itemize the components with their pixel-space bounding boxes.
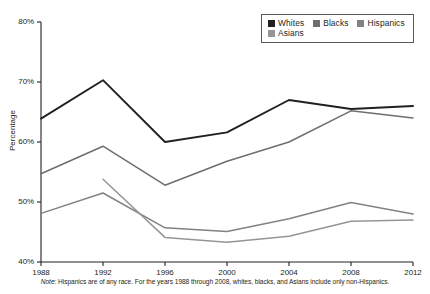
series-line-asians: [103, 179, 413, 242]
y-tick-label: 70%: [8, 77, 34, 86]
legend-swatch-blacks: [313, 20, 320, 27]
footnote-text: Hispanics are of any race. For the years…: [56, 278, 389, 285]
series-line-blacks: [41, 111, 413, 185]
x-tick-label: 1992: [83, 268, 123, 277]
y-tick-label: 60%: [8, 137, 34, 146]
legend-item-blacks[interactable]: Blacks: [313, 18, 348, 28]
axis-layer: [37, 22, 413, 266]
x-tick-label: 2000: [207, 268, 247, 277]
legend-item-whites[interactable]: Whites: [268, 18, 304, 28]
y-tick-label: 40%: [8, 257, 34, 266]
chart-figure: Percentage 80%70%60%50%40% 1988199219962…: [0, 0, 430, 294]
series-layer: [41, 80, 413, 242]
series-line-hispanics: [41, 193, 413, 231]
legend-swatch-whites: [268, 20, 275, 27]
y-tick-label: 80%: [8, 17, 34, 26]
line-chart-plot: [0, 0, 430, 294]
legend-label-asians: Asians: [278, 29, 304, 37]
x-tick-label: 1996: [145, 268, 185, 277]
legend-item-asians[interactable]: Asians: [268, 28, 304, 38]
legend-label-blacks: Blacks: [323, 19, 348, 27]
legend-label-whites: Whites: [278, 19, 304, 27]
legend-label-hispanics: Hispanics: [367, 19, 404, 27]
chart-footnote: Note: Hispanics are of any race. For the…: [0, 278, 430, 285]
footnote-note-word: Note:: [41, 278, 57, 285]
x-tick-label: 2008: [331, 268, 371, 277]
legend-swatch-hispanics: [357, 20, 364, 27]
x-tick-label: 1988: [21, 268, 61, 277]
legend-item-hispanics[interactable]: Hispanics: [357, 18, 404, 28]
chart-legend: Whites Blacks Hispanics Asians: [261, 14, 414, 43]
y-axis-title: Percentage: [8, 101, 17, 161]
x-tick-label: 2012: [393, 268, 430, 277]
legend-swatch-asians: [268, 30, 275, 37]
x-tick-label: 2004: [269, 268, 309, 277]
y-tick-label: 50%: [8, 197, 34, 206]
